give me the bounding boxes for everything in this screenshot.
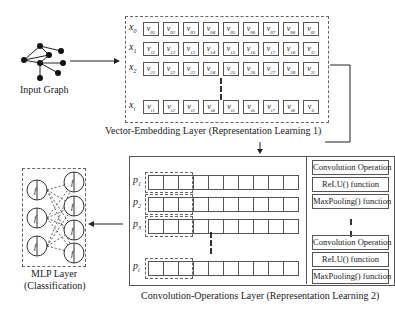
conv-cell: [193, 261, 209, 276]
conv-cell: [208, 261, 224, 276]
ellipsis-connector: [220, 78, 222, 100]
embedding-cell: vi1: [143, 100, 159, 114]
embedding-cell: v0l: [303, 22, 319, 36]
conv-cell: [268, 219, 284, 234]
embedding-cell: vi5: [223, 100, 239, 114]
embedding-cell: vi2: [163, 100, 179, 114]
conv-cell: [238, 219, 254, 234]
embedding-cell: vil: [303, 100, 319, 114]
conv-cell: [253, 219, 269, 234]
input-graph-icon: [18, 38, 68, 83]
operations-panel: [306, 156, 307, 284]
kernel-window: [145, 258, 193, 279]
embedding-cell: v05: [223, 22, 239, 36]
row-label: x2: [129, 61, 136, 74]
conv-cell: [268, 197, 284, 212]
conv-cell: [268, 175, 284, 190]
arrow-elbow-icon: [325, 60, 355, 160]
embedding-cell: vi4: [203, 100, 219, 114]
embedding-cell: v04: [203, 22, 219, 36]
arrow-down-icon: [255, 140, 265, 155]
operation-box: Convolution Operation: [312, 235, 389, 250]
row-label: pi: [133, 260, 140, 273]
conv-cell: [283, 219, 299, 234]
conv-cell: [193, 197, 209, 212]
embedding-cell: v08: [283, 22, 299, 36]
conv-cell: [253, 261, 269, 276]
kernel-window: [145, 172, 193, 193]
conv-cell: [208, 197, 224, 212]
operation-box: MaxPooling() function: [312, 269, 389, 284]
embedding-cell: v02: [163, 22, 179, 36]
conv-cell: [223, 197, 239, 212]
embedding-cell: vi6: [243, 100, 259, 114]
operation-box: ReLU() function: [312, 252, 389, 267]
mlp-caption-line2: (Classification): [24, 280, 86, 291]
embedding-cell: v12: [163, 42, 179, 56]
conv-cell: [193, 175, 209, 190]
operation-box: MaxPooling() function: [312, 194, 389, 209]
embedding-cell: v16: [243, 42, 259, 56]
embedding-cell: vi7: [263, 100, 279, 114]
row-label: p2: [133, 196, 141, 209]
embedding-cell: v01: [143, 22, 159, 36]
operation-box: ReLU() function: [312, 177, 389, 192]
embedding-cell: v14: [203, 42, 219, 56]
embedding-cell: v24: [203, 62, 219, 76]
embedding-cell: vi3: [183, 100, 199, 114]
kernel-window: [145, 216, 193, 237]
embedding-cell: v11: [143, 42, 159, 56]
conv-cell: [253, 197, 269, 212]
arrow-left-icon: [88, 219, 123, 229]
embedding-cell: vi8: [283, 100, 299, 114]
embedding-cell: v06: [243, 22, 259, 36]
conv-cell: [208, 175, 224, 190]
row-label: p1: [133, 174, 141, 187]
embedding-layer-caption: Vector-Embedding Layer (Representation L…: [105, 125, 321, 136]
conv-cell: [268, 261, 284, 276]
conv-cell: [283, 175, 299, 190]
embedding-cell: v03: [183, 22, 199, 36]
embedding-cell: v13: [183, 42, 199, 56]
conv-cell: [238, 261, 254, 276]
row-label: x1: [129, 41, 136, 54]
mlp-network-icon: fff ffff: [22, 168, 86, 266]
embedding-cell: v26: [243, 62, 259, 76]
row-label: p3: [133, 218, 141, 231]
mlp-caption-line1: MLP Layer: [31, 268, 77, 279]
row-label: x0: [129, 21, 136, 34]
input-graph-label: Input Graph: [20, 84, 69, 95]
arrow-right-icon: [70, 56, 120, 66]
embedding-cell: v2l: [303, 62, 319, 76]
conv-cell: [283, 197, 299, 212]
embedding-cell: v23: [183, 62, 199, 76]
embedding-cell: v22: [163, 62, 179, 76]
row-label: xi: [129, 99, 135, 112]
conv-cell: [223, 219, 239, 234]
embedding-cell: v21: [143, 62, 159, 76]
embedding-cell: v1l: [303, 42, 319, 56]
conv-cell: [238, 175, 254, 190]
operation-box: Convolution Operation: [312, 160, 389, 175]
conv-cell: [223, 261, 239, 276]
conv-cell: [193, 219, 209, 234]
conv-cell: [253, 175, 269, 190]
embedding-cell: v15: [223, 42, 239, 56]
ellipsis-connector: [210, 232, 212, 254]
embedding-cell: v28: [283, 62, 299, 76]
embedding-cell: v27: [263, 62, 279, 76]
embedding-cell: v17: [263, 42, 279, 56]
conv-cell: [223, 175, 239, 190]
embedding-cell: v25: [223, 62, 239, 76]
conv-cell: [283, 261, 299, 276]
embedding-cell: v07: [263, 22, 279, 36]
kernel-window: [145, 194, 193, 215]
convolution-layer-caption: Convolution-Operations Layer (Representa…: [141, 290, 379, 301]
embedding-cell: v18: [283, 42, 299, 56]
conv-cell: [238, 197, 254, 212]
